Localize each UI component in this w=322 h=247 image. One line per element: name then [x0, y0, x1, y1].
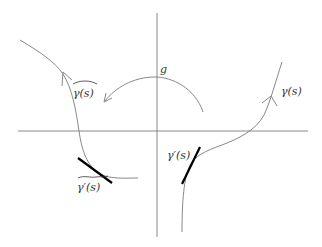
rotation-arc [105, 77, 203, 112]
transformed-tangent [78, 158, 112, 183]
original-curve [182, 62, 282, 232]
label-g: g [160, 63, 167, 76]
label-gamma-prime: γ′(s) [167, 149, 190, 162]
label-gamma: γ(s) [281, 85, 302, 98]
tilde-mark [73, 81, 97, 84]
label-gamma-tilde-prime: γ′(s) [77, 181, 100, 194]
label-gamma-tilde: γ(s) [73, 87, 94, 100]
diagram-canvas: g γ(s) γ′(s) γ(s) γ′(s) [0, 0, 322, 247]
